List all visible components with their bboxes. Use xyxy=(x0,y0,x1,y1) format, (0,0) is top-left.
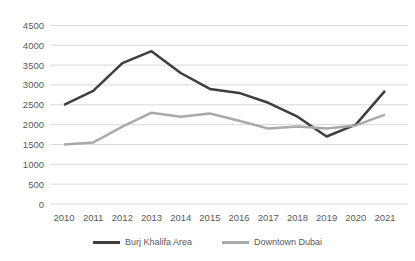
y-axis-tick-label: 3000 xyxy=(23,79,44,90)
y-axis-tick-label: 0 xyxy=(39,199,44,210)
x-axis-tick-label: 2021 xyxy=(374,212,395,223)
x-axis-tick-label: 2012 xyxy=(112,212,133,223)
y-axis-tick-label: 3500 xyxy=(23,60,44,71)
series-line-downtown-dubai xyxy=(64,113,385,145)
series-line-burj-khalifa-area xyxy=(64,51,385,136)
x-axis-tick-label: 2016 xyxy=(229,212,250,223)
y-axis-tick-label: 2000 xyxy=(23,119,44,130)
x-axis-tick-label: 2013 xyxy=(141,212,162,223)
x-axis-tick-label: 2015 xyxy=(199,212,220,223)
x-axis-tick-label: 2014 xyxy=(170,212,191,223)
y-axis-tick-label: 4000 xyxy=(23,40,44,51)
y-axis-tick-label: 4500 xyxy=(23,20,44,31)
line-chart: 0500100015002000250030003500400045002010… xyxy=(0,0,415,261)
chart-legend: Burj Khalifa Area Downtown Dubai xyxy=(0,237,415,247)
x-axis-tick-label: 2010 xyxy=(53,212,74,223)
legend-line-swatch-downtown-dubai xyxy=(222,241,249,244)
y-axis-tick-label: 2500 xyxy=(23,99,44,110)
legend-item-burj-khalifa-area: Burj Khalifa Area xyxy=(93,237,192,247)
legend-label-burj-khalifa-area: Burj Khalifa Area xyxy=(125,237,192,247)
y-axis-tick-label: 1000 xyxy=(23,159,44,170)
y-axis-tick-label: 1500 xyxy=(23,139,44,150)
legend-item-downtown-dubai: Downtown Dubai xyxy=(222,237,322,247)
y-axis-tick-label: 500 xyxy=(28,179,44,190)
x-axis-tick-label: 2020 xyxy=(345,212,366,223)
x-axis-tick-label: 2011 xyxy=(83,212,103,223)
legend-label-downtown-dubai: Downtown Dubai xyxy=(254,237,322,247)
legend-line-swatch-burj-khalifa-area xyxy=(93,241,120,244)
x-axis-tick-label: 2017 xyxy=(258,212,279,223)
x-axis-tick-label: 2019 xyxy=(316,212,337,223)
chart-canvas: 0500100015002000250030003500400045002010… xyxy=(0,0,415,261)
x-axis-tick-label: 2018 xyxy=(287,212,308,223)
